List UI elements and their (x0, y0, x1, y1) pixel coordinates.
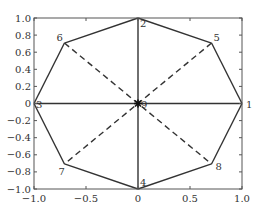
y-tick-label: −0.6 (7, 149, 31, 160)
y-tick-label: −0.8 (7, 166, 31, 177)
node-label-6: 6 (56, 32, 62, 43)
x-tick-label: 0 (135, 193, 141, 204)
y-tick-label: 0.8 (15, 30, 31, 41)
edge-5-2 (138, 18, 212, 43)
edge-2-6 (64, 18, 138, 43)
node-label-2: 2 (140, 18, 146, 29)
y-tick-label: 0.6 (15, 47, 31, 58)
node-label-4: 4 (140, 177, 146, 188)
node-label-1: 1 (246, 99, 252, 110)
x-tick-label: −1.0 (22, 193, 46, 204)
mesh-chart: −1.0−0.500.51.0 −1.0−0.8−0.6−0.4−0.200.2… (0, 0, 262, 217)
y-tick-label: −0.4 (7, 132, 31, 143)
y-tick-label: 1.0 (15, 13, 31, 24)
edge-8-1 (212, 104, 242, 164)
x-tick-label: −0.5 (74, 193, 98, 204)
node-label-8: 8 (216, 161, 222, 172)
x-tick-label: 0.5 (182, 193, 198, 204)
edge-4-8 (138, 164, 212, 189)
edge-7-4 (64, 164, 138, 189)
y-tick-label: 0 (25, 98, 31, 109)
node-label-5: 5 (214, 32, 220, 43)
edge-3-7 (34, 104, 64, 164)
y-tick-label: 0.2 (15, 81, 31, 92)
edge-6-3 (34, 43, 64, 103)
y-tick-label: 0.4 (15, 64, 31, 75)
y-tick-label: −0.2 (7, 115, 31, 126)
y-tick-label: −1.0 (7, 184, 31, 195)
node-label-7: 7 (58, 166, 64, 177)
node-label-3: 3 (36, 99, 42, 110)
center-asterisk-icon (134, 100, 142, 108)
x-tick-label: 1.0 (234, 193, 250, 204)
x-axis: −1.0−0.500.51.0 (22, 18, 250, 204)
edge-1-5 (212, 43, 242, 103)
